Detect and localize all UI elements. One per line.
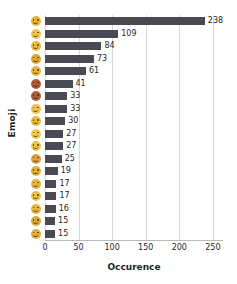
- bar-row[interactable]: 33: [45, 103, 223, 116]
- bar-row[interactable]: 109: [45, 28, 223, 41]
- bar-chart: Emoji 2381098473614133333027272519171716…: [0, 0, 237, 284]
- emoji-face-glyph: [31, 129, 41, 139]
- emoji-face-13-icon: [29, 165, 42, 178]
- bar-row[interactable]: 61: [45, 65, 223, 78]
- emoji-face-glyph: [31, 116, 41, 126]
- bar[interactable]: [45, 180, 56, 188]
- emoji-face-11-icon: [29, 140, 42, 153]
- emoji-face-glyph: [31, 79, 41, 89]
- emoji-mouth: [33, 221, 38, 224]
- bar[interactable]: [45, 55, 94, 63]
- emoji-face-16-icon: [29, 203, 42, 216]
- bar-value-label: 73: [97, 55, 107, 63]
- bar-value-label: 17: [59, 180, 69, 188]
- emoji-mouth: [33, 58, 38, 61]
- bar[interactable]: [45, 42, 101, 50]
- emoji-mouth: [33, 83, 38, 86]
- bar-value-label: 15: [58, 230, 68, 238]
- emoji-mouth: [33, 233, 38, 236]
- emoji-mouth: [33, 33, 38, 36]
- emoji-mouth: [33, 208, 38, 211]
- emoji-mouth: [33, 196, 38, 199]
- emoji-face-glyph: [31, 141, 41, 151]
- bar-value-label: 109: [121, 30, 136, 38]
- bar[interactable]: [45, 117, 65, 125]
- bar[interactable]: [45, 205, 56, 213]
- x-tick-label: 150: [138, 243, 153, 252]
- emoji-mouth: [33, 46, 38, 49]
- bar-row[interactable]: 17: [45, 178, 223, 191]
- x-tick-label: 0: [42, 243, 47, 252]
- bar-value-label: 19: [61, 167, 71, 175]
- emoji-face-14-icon: [29, 178, 42, 191]
- bar-row[interactable]: 25: [45, 153, 223, 166]
- bar[interactable]: [45, 67, 86, 75]
- emoji-mouth: [33, 146, 38, 149]
- emoji-mouth: [33, 183, 38, 186]
- bar[interactable]: [45, 105, 67, 113]
- bar-value-label: 33: [70, 105, 80, 113]
- emoji-mouth: [33, 108, 38, 111]
- emoji-face-glyph: [31, 54, 41, 64]
- bar-row[interactable]: 19: [45, 165, 223, 178]
- x-axis-line: [45, 240, 223, 241]
- bar[interactable]: [45, 155, 62, 163]
- emoji-face-glyph: [31, 91, 41, 101]
- emoji-face-7-icon: [29, 90, 42, 103]
- bar-value-label: 61: [89, 67, 99, 75]
- emoji-mouth: [33, 158, 38, 161]
- bar-row[interactable]: 15: [45, 215, 223, 228]
- bar[interactable]: [45, 30, 118, 38]
- bar[interactable]: [45, 92, 67, 100]
- emoji-mouth: [33, 71, 38, 74]
- bar[interactable]: [45, 167, 58, 175]
- emoji-face-6-icon: [29, 78, 42, 91]
- emoji-face-3-icon: [29, 40, 42, 53]
- emoji-mouth: [33, 96, 38, 99]
- emoji-face-glyph: [31, 104, 41, 114]
- emoji-face-glyph: [31, 16, 41, 26]
- bar-row[interactable]: 16: [45, 203, 223, 216]
- emoji-face-15-icon: [29, 190, 42, 203]
- bar-row[interactable]: 15: [45, 228, 223, 241]
- bar-row[interactable]: 41: [45, 78, 223, 91]
- bar[interactable]: [45, 192, 56, 200]
- emoji-face-glyph: [31, 216, 41, 226]
- emoji-face-2-icon: [29, 28, 42, 41]
- emoji-mouth: [33, 171, 38, 174]
- bar-row[interactable]: 84: [45, 40, 223, 53]
- bar[interactable]: [45, 142, 63, 150]
- x-tick-label: 200: [172, 243, 187, 252]
- bar[interactable]: [45, 80, 73, 88]
- emoji-face-5-icon: [29, 65, 42, 78]
- x-tick-label: 50: [73, 243, 83, 252]
- bar-row[interactable]: 17: [45, 190, 223, 203]
- bar-value-label: 27: [66, 130, 76, 138]
- bar-row[interactable]: 27: [45, 128, 223, 141]
- bar-value-label: 30: [68, 117, 78, 125]
- bar[interactable]: [45, 230, 55, 238]
- bar[interactable]: [45, 130, 63, 138]
- x-tick-label: 100: [105, 243, 120, 252]
- bar-row[interactable]: 30: [45, 115, 223, 128]
- bar[interactable]: [45, 217, 55, 225]
- emoji-face-9-icon: [29, 115, 42, 128]
- emoji-face-glyph: [31, 179, 41, 189]
- bar-value-label: 17: [59, 192, 69, 200]
- emoji-mouth: [33, 121, 38, 124]
- bar-value-label: 41: [76, 80, 86, 88]
- bar-rows: 23810984736141333330272725191717161515: [45, 15, 223, 240]
- emoji-face-glyph: [31, 29, 41, 39]
- bar-row[interactable]: 33: [45, 90, 223, 103]
- y-axis-title: Emoji: [7, 93, 17, 153]
- bar-row[interactable]: 27: [45, 140, 223, 153]
- emoji-face-10-icon: [29, 128, 42, 141]
- bar[interactable]: [45, 17, 205, 25]
- bar-row[interactable]: 73: [45, 53, 223, 66]
- x-axis-tick-labels: 050100150200250: [45, 243, 223, 257]
- emoji-face-1-icon: [29, 15, 42, 28]
- bar-value-label: 238: [208, 17, 223, 25]
- x-tick-label: 250: [205, 243, 220, 252]
- bar-row[interactable]: 238: [45, 15, 223, 28]
- emoji-face-18-icon: [29, 228, 42, 241]
